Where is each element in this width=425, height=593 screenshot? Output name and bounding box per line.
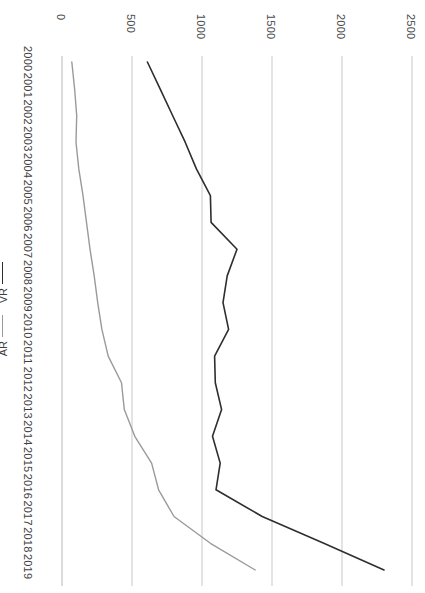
category-label-2017: 2017	[22, 500, 34, 527]
category-label-2004: 2004	[22, 153, 34, 180]
category-label-2005: 2005	[22, 180, 34, 207]
plot-area	[0, 0, 425, 593]
category-label-2018: 2018	[22, 527, 34, 554]
chart-canvas: 05001000150020002500 2000200120022003200…	[0, 0, 425, 593]
category-label-2019: 2019	[22, 554, 34, 581]
category-axis-labels: 2000200120022003200420052006200720082009…	[22, 46, 34, 581]
category-label-2014: 2014	[22, 420, 34, 447]
category-label-2006: 2006	[22, 206, 34, 233]
category-label-2015: 2015	[22, 447, 34, 474]
category-label-2012: 2012	[22, 367, 34, 394]
category-label-2016: 2016	[22, 474, 34, 501]
legend-swatch-vr-icon	[2, 262, 3, 284]
legend-item-ar[interactable]: AR	[0, 315, 10, 356]
series-line-vr	[147, 62, 384, 570]
legend-label-vr: VR	[0, 288, 9, 303]
category-label-2001: 2001	[22, 73, 34, 100]
category-label-2002: 2002	[22, 99, 34, 126]
category-label-2009: 2009	[22, 287, 34, 314]
series-line-ar	[72, 62, 255, 570]
legend-label-ar: AR	[0, 341, 9, 356]
gridlines	[62, 56, 412, 586]
category-label-2013: 2013	[22, 394, 34, 421]
legend-swatch-ar-icon	[2, 315, 3, 337]
legend-item-vr[interactable]: VR	[0, 262, 10, 303]
category-label-2008: 2008	[22, 260, 34, 287]
chart-legend: VRAR	[0, 262, 10, 369]
category-label-2010: 2010	[22, 313, 34, 340]
category-label-2003: 2003	[22, 126, 34, 153]
category-label-2011: 2011	[22, 340, 34, 367]
category-label-2000: 2000	[22, 46, 34, 73]
category-label-2007: 2007	[22, 233, 34, 260]
